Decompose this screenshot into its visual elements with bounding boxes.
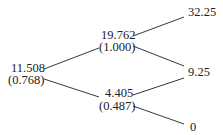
node-dd-value: 0	[190, 121, 196, 134]
edge-root-up	[44, 48, 99, 69]
edge-up-uu	[133, 17, 184, 36]
edge-root-down	[44, 79, 99, 97]
node-root-delta: (0.768)	[8, 74, 44, 87]
edge-down-dd	[133, 106, 184, 124]
edge-up-ud	[133, 46, 184, 66]
edge-down-ud	[133, 78, 184, 95]
node-down-delta: (0.487)	[99, 100, 135, 113]
node-uu-value: 32.25	[188, 6, 216, 19]
node-up-delta: (1.000)	[99, 41, 135, 54]
node-ud-value: 9.25	[188, 66, 210, 79]
